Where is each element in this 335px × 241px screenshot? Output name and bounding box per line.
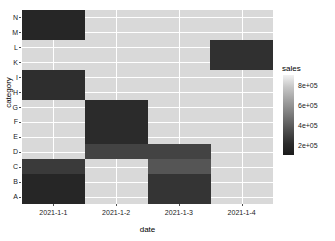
y-axis-tick-mark (19, 92, 21, 93)
y-axis-tick-label: L (4, 44, 18, 51)
x-axis-title: date (22, 225, 273, 234)
x-axis-tick-label: 2021-1-2 (88, 209, 144, 216)
legend-tick-mark (294, 125, 297, 126)
y-axis-tick-label: B (4, 178, 18, 185)
y-axis-tick-mark (19, 167, 21, 168)
x-axis-tick-mark (242, 204, 243, 206)
y-axis-tick-label: I (4, 74, 18, 81)
legend-tick-label: 6e+05 (298, 102, 318, 109)
y-axis-tick-label: M (4, 29, 18, 36)
heatmap-cell (148, 159, 211, 174)
y-axis-tick-label: F (4, 118, 18, 125)
heatmap-cell (85, 100, 148, 115)
y-axis-tick-label: A (4, 193, 18, 200)
y-axis-tick-label: D (4, 148, 18, 155)
legend-title: sales (282, 64, 301, 73)
y-axis-tick-label: C (4, 163, 18, 170)
heatmap-cell (22, 70, 85, 85)
legend: sales 8e+056e+054e+052e+05 (282, 64, 335, 164)
heatmap-cell (210, 40, 273, 55)
legend-tick-mark (294, 85, 297, 86)
heatmap-chart: category date NMLKIHGFEDCBA sales 8e+056… (0, 0, 335, 241)
legend-tick-label: 2e+05 (298, 142, 318, 149)
legend-tick-label: 8e+05 (298, 82, 318, 89)
x-axis-tick-mark (116, 204, 117, 206)
heatmap-cell (22, 159, 85, 174)
heatmap-cell (148, 189, 211, 204)
heatmap-cell (148, 144, 211, 159)
y-axis-tick-mark (19, 137, 21, 138)
y-axis-tick-label: H (4, 89, 18, 96)
heatmap-cell (210, 55, 273, 70)
y-axis-tick-mark (19, 107, 21, 108)
legend-tick-label: 4e+05 (298, 122, 318, 129)
y-axis-tick-mark (19, 77, 21, 78)
heatmap-cell (22, 25, 85, 40)
y-axis-tick-mark (19, 47, 21, 48)
legend-colorbar (283, 75, 294, 155)
heatmap-cell (22, 174, 85, 189)
legend-tick-mark (294, 105, 297, 106)
heatmap-cell (85, 129, 148, 144)
y-axis-tick-label: K (4, 59, 18, 66)
x-axis-tick-label: 2021-1-3 (151, 209, 207, 216)
y-axis-tick-label: N (4, 14, 18, 21)
heatmap-cell (22, 85, 85, 100)
y-axis-tick-mark (19, 182, 21, 183)
legend-tick-mark (294, 145, 297, 146)
x-axis-tick-label: 2021-1-4 (214, 209, 270, 216)
plot-panel (22, 10, 273, 204)
y-axis: NMLKIHGFEDCBA (0, 0, 18, 241)
y-axis-tick-mark (19, 122, 21, 123)
heatmap-cell (22, 10, 85, 25)
heatmap-cell (22, 189, 85, 204)
y-axis-tick-mark (19, 197, 21, 198)
y-axis-tick-mark (19, 32, 21, 33)
x-axis-tick-label: 2021-1-1 (25, 209, 81, 216)
y-axis-tick-label: E (4, 133, 18, 140)
y-axis-tick-mark (19, 17, 21, 18)
y-axis-tick-mark (19, 152, 21, 153)
heatmap-cell (85, 144, 148, 159)
heatmap-cell (85, 114, 148, 129)
heatmap-cell (148, 174, 211, 189)
x-axis-tick-mark (179, 204, 180, 206)
y-axis-tick-mark (19, 62, 21, 63)
x-axis-tick-mark (53, 204, 54, 206)
y-axis-tick-label: G (4, 104, 18, 111)
